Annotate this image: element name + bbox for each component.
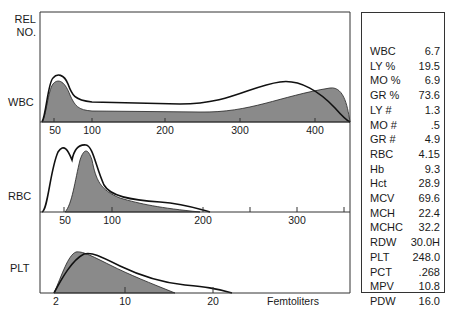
result-row: PCT.268	[370, 265, 440, 280]
result-row: LY #1.3	[370, 103, 440, 118]
result-row: WBC6.7	[370, 44, 440, 59]
result-row: MCHC32.2	[370, 220, 440, 235]
wbc-histogram	[40, 75, 350, 122]
result-row: MCV69.6	[370, 191, 440, 206]
rbc-histogram	[40, 145, 350, 212]
wbc-tick: 200	[156, 124, 174, 136]
result-row: Hb9.3	[370, 162, 440, 177]
result-row: MCH22.4	[370, 206, 440, 221]
result-row: GR %73.6	[370, 88, 440, 103]
result-row: Hct28.9	[370, 176, 440, 191]
result-row: GR #4.9	[370, 132, 440, 147]
results-panel: WBC6.7 LY %19.5 MO %6.9 GR %73.6 LY #1.3…	[361, 12, 445, 293]
x-axis-unit-label: Femtoliters	[267, 295, 319, 307]
plt-tick: 20	[207, 295, 219, 307]
rbc-tick: 100	[103, 214, 121, 226]
plt-tick: 10	[119, 295, 131, 307]
result-row: MO %6.9	[370, 73, 440, 88]
result-row: PDW16.0	[370, 294, 440, 309]
result-row: MPV10.8	[370, 279, 440, 294]
plt-histogram	[40, 252, 350, 293]
wbc-tick: 100	[83, 124, 101, 136]
result-row: PLT248.0	[370, 250, 440, 265]
rbc-tick: 50	[59, 214, 71, 226]
result-row: LY %19.5	[370, 59, 440, 74]
wbc-tick: 400	[306, 124, 324, 136]
result-row: RDW30.0H	[370, 235, 440, 250]
result-row: RBC4.15	[370, 147, 440, 162]
rbc-tick: 300	[288, 214, 306, 226]
wbc-tick: 300	[231, 124, 249, 136]
result-row: MO #.5	[370, 118, 440, 133]
plt-tick: 2	[53, 295, 59, 307]
rbc-tick: 200	[194, 214, 212, 226]
wbc-tick: 50	[49, 124, 61, 136]
